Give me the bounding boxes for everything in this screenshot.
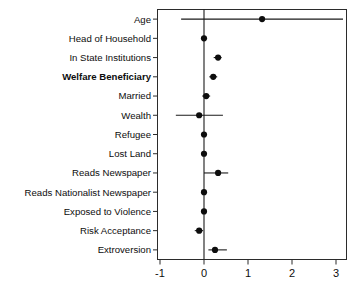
point-marker-wealth bbox=[196, 112, 202, 118]
category-label-age: Age bbox=[134, 14, 151, 25]
category-label-refugee: Refugee bbox=[115, 129, 151, 140]
x-tick-label-1: 1 bbox=[245, 267, 251, 279]
x-tick-label-0: 0 bbox=[201, 267, 207, 279]
point-marker-lost-land bbox=[201, 151, 207, 157]
category-label-wealth: Wealth bbox=[121, 110, 151, 121]
category-label-reads-newspaper: Reads Newspaper bbox=[72, 167, 152, 178]
category-label-exposed-to-violence: Exposed to Violence bbox=[64, 206, 151, 217]
x-tick-label-3: 3 bbox=[333, 267, 339, 279]
point-marker-in-state-institutions bbox=[215, 54, 221, 60]
point-marker-exposed-to-violence bbox=[201, 208, 207, 214]
point-marker-extroversion bbox=[212, 247, 218, 253]
point-marker-reads-nationalist-newspaper bbox=[201, 189, 207, 195]
point-marker-head-of-household bbox=[201, 35, 207, 41]
category-label-welfare-beneficiary: Welfare Beneficiary bbox=[62, 71, 152, 82]
category-label-married: Married bbox=[118, 90, 151, 101]
point-marker-married bbox=[203, 93, 209, 99]
point-marker-refugee bbox=[201, 131, 207, 137]
category-label-reads-nationalist-newspaper: Reads Nationalist Newspaper bbox=[25, 187, 152, 198]
point-marker-risk-acceptance bbox=[196, 228, 202, 234]
category-label-extroversion: Extroversion bbox=[98, 244, 151, 255]
category-label-head-of-household: Head of Household bbox=[69, 33, 151, 44]
point-marker-age bbox=[259, 16, 265, 22]
coefficient-plot: AgeHead of HouseholdIn State Institution… bbox=[0, 0, 356, 287]
x-tick-label-2: 2 bbox=[289, 267, 295, 279]
category-label-lost-land: Lost Land bbox=[109, 148, 151, 159]
chart-background bbox=[0, 0, 356, 287]
category-label-risk-acceptance: Risk Acceptance bbox=[80, 225, 151, 236]
chart-canvas: AgeHead of HouseholdIn State Institution… bbox=[0, 0, 356, 287]
category-label-in-state-institutions: In State Institutions bbox=[69, 52, 151, 63]
x-tick-label-neg1: -1 bbox=[155, 267, 165, 279]
point-marker-reads-newspaper bbox=[215, 170, 221, 176]
point-marker-welfare-beneficiary bbox=[210, 74, 216, 80]
